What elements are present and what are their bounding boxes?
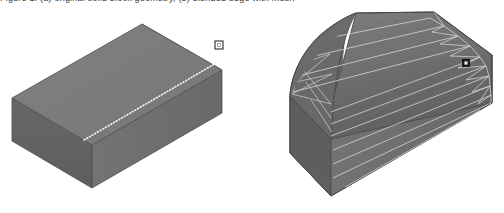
- figure-blended-block[interactable]: [290, 12, 492, 196]
- selection-handle-icon[interactable]: [215, 41, 223, 49]
- figure-original-block[interactable]: [12, 24, 223, 188]
- figure-canvas: [0, 0, 504, 213]
- clipped-caption-text: Figure 1. (a) original solid block geome…: [0, 0, 504, 3]
- edge-marker-icon[interactable]: [463, 60, 470, 67]
- canvas-stage: Figure 1. (a) original solid block geome…: [0, 0, 504, 213]
